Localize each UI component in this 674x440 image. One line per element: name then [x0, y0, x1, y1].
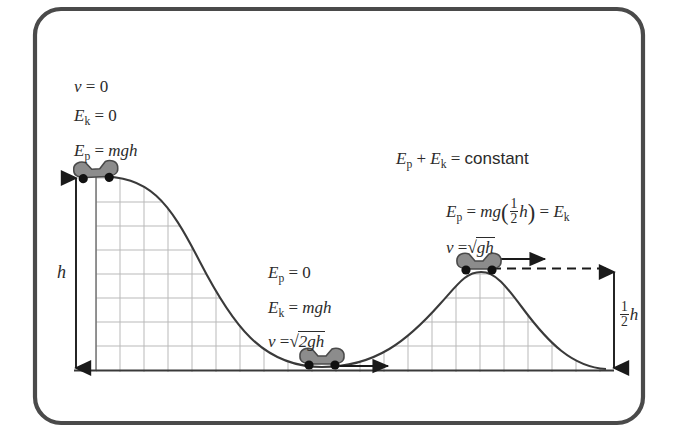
paren-close: ) — [528, 200, 535, 225]
label-ep-mgh: Ep = mgh — [74, 136, 138, 171]
relation-equals: = — [288, 298, 298, 317]
symbol-E: E — [446, 202, 456, 221]
subscript-p: p — [456, 211, 462, 224]
word-constant: constant — [465, 149, 529, 168]
subscript-p: p — [406, 158, 412, 171]
value-zero: 0 — [302, 263, 311, 282]
symbol-E: E — [268, 298, 278, 317]
relation-equals-2: = — [540, 202, 550, 221]
relation-equals: = — [451, 149, 461, 168]
energy-constant-statement: Ep + Ek = constant — [396, 144, 529, 179]
fraction-numerator: 1 — [510, 197, 519, 212]
subscript-p: p — [84, 149, 90, 162]
radicand-2gh: 2gh — [298, 331, 326, 351]
subscript-k: k — [278, 306, 284, 319]
expression-mgh: mgh — [108, 141, 137, 160]
fraction-numerator: 1 — [620, 300, 629, 315]
subscript-k: k — [84, 115, 90, 128]
paren-open: ( — [501, 200, 508, 225]
label-ek-zero: Ek = 0 — [74, 101, 138, 136]
h-dimension-label: h — [57, 262, 66, 283]
label-ep-zero: Ep = 0 — [268, 258, 332, 293]
half-h-dimension-label: 12h — [619, 300, 638, 329]
fraction-denominator: 2 — [510, 212, 519, 226]
symbol-h: h — [630, 305, 639, 324]
relation-equals: = — [288, 263, 298, 282]
relation-equals: = — [86, 77, 96, 96]
bottom-of-valley-labels: Ep = 0 Ek = mgh v =√2gh — [268, 258, 332, 356]
symbol-E: E — [74, 141, 84, 160]
top-of-second-hill-labels: Ep = mg(12h) = Ek v =√gh — [446, 196, 570, 262]
square-root-gh: √gh — [467, 233, 494, 262]
subscript-k: k — [564, 211, 570, 224]
label-v-zero: v = 0 — [74, 72, 138, 101]
symbol-E: E — [396, 149, 406, 168]
radicand-gh: gh — [476, 237, 495, 257]
expression-mg: mg — [480, 202, 501, 221]
fraction-denominator: 2 — [620, 315, 629, 329]
figure-canvas — [0, 0, 674, 440]
subscript-k: k — [441, 158, 447, 171]
symbol-v: v — [268, 332, 276, 351]
relation-equals: = — [94, 141, 104, 160]
symbol-E: E — [74, 106, 84, 125]
relation-equals: = — [280, 332, 290, 351]
square-root-2gh: √2gh — [289, 327, 325, 356]
symbol-h: h — [519, 202, 528, 221]
value-zero: 0 — [108, 106, 117, 125]
symbol-E: E — [430, 149, 440, 168]
fraction-one-half: 12 — [620, 300, 629, 329]
symbol-E-right: E — [553, 202, 563, 221]
label-v-sqrt-gh: v =√gh — [446, 233, 570, 262]
symbol-E: E — [268, 263, 278, 282]
label-ek-mgh: Ek = mgh — [268, 293, 332, 328]
expression-mgh: mgh — [302, 298, 331, 317]
symbol-v: v — [74, 77, 82, 96]
symbol-v: v — [446, 238, 454, 257]
label-ep-half-mgh: Ep = mg(12h) = Ek — [446, 196, 570, 233]
relation-equals: = — [466, 202, 476, 221]
label-v-sqrt-2gh: v =√2gh — [268, 327, 332, 356]
operator-plus: + — [416, 149, 426, 168]
symbol-h: h — [57, 262, 66, 282]
relation-equals: = — [458, 238, 468, 257]
subscript-p: p — [278, 272, 284, 285]
value-zero: 0 — [100, 77, 109, 96]
relation-equals: = — [94, 106, 104, 125]
energy-conservation-figure: v = 0 Ek = 0 Ep = mgh Ep = 0 Ek = mgh v … — [0, 0, 674, 440]
fraction-one-half: 12 — [510, 197, 519, 226]
top-of-first-hill-labels: v = 0 Ek = 0 Ep = mgh — [74, 72, 138, 170]
